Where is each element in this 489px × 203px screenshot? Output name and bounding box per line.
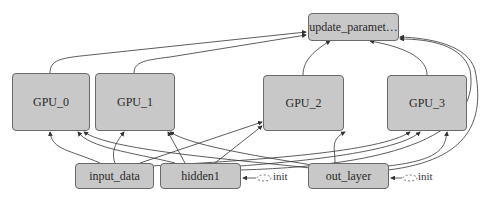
node-hidden1[interactable]: hidden1 bbox=[160, 163, 241, 189]
edge-hidden1-gpu2 bbox=[215, 126, 262, 163]
edge-gpu2-update bbox=[303, 41, 330, 75]
edge-gpu0-update bbox=[50, 32, 306, 73]
node-label: out_layer bbox=[326, 169, 371, 184]
graph-canvas: update_paramet… GPU_0 GPU_1 GPU_2 GPU_3 … bbox=[0, 0, 489, 203]
node-gpu-3[interactable]: GPU_3 bbox=[387, 75, 467, 131]
node-gpu-2[interactable]: GPU_2 bbox=[263, 75, 344, 131]
node-update-parameters[interactable]: update_paramet… bbox=[308, 13, 399, 41]
init-ellipse-hidden1 bbox=[257, 175, 271, 181]
node-label: input_data bbox=[89, 169, 140, 184]
node-label: hidden1 bbox=[181, 169, 220, 184]
node-label: GPU_0 bbox=[33, 95, 69, 110]
edge-gpu3-update bbox=[370, 41, 427, 75]
edge-input-gpu1 bbox=[113, 132, 124, 163]
init-ellipse-outlayer bbox=[403, 175, 417, 181]
edge-outlayer-gpu2 bbox=[334, 132, 345, 163]
node-gpu-1[interactable]: GPU_1 bbox=[95, 73, 175, 131]
init-label-hidden1: init bbox=[273, 170, 288, 182]
node-out-layer[interactable]: out_layer bbox=[308, 163, 389, 189]
node-input-data[interactable]: input_data bbox=[75, 163, 154, 189]
node-label: GPU_3 bbox=[409, 96, 445, 111]
edge-input-gpu3 bbox=[150, 132, 410, 166]
edge-hidden1-gpu3 bbox=[240, 132, 420, 166]
node-label: update_paramet… bbox=[309, 20, 398, 35]
init-label-outlayer: init bbox=[418, 170, 433, 182]
node-label: GPU_1 bbox=[117, 95, 153, 110]
edge-outlayer-gpu3 bbox=[388, 132, 447, 166]
edge-gpu1-update bbox=[134, 35, 306, 73]
node-label: GPU_2 bbox=[285, 96, 321, 111]
edge-hidden1-gpu1 bbox=[168, 132, 185, 163]
node-gpu-0[interactable]: GPU_0 bbox=[12, 73, 90, 131]
